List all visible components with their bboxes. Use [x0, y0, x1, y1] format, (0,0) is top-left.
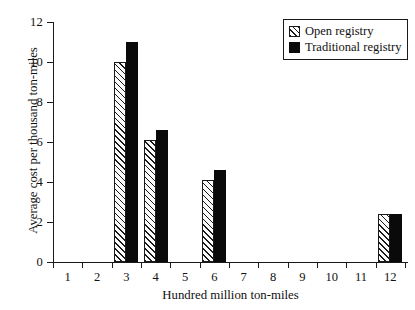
bar-open-registry-12 — [378, 214, 390, 262]
x-tick-label-8: 8 — [258, 271, 288, 284]
y-tick-12 — [47, 22, 53, 23]
filled-square-icon — [289, 42, 300, 53]
x-tick-9 — [317, 263, 318, 268]
legend-item-traditional-registry: Traditional registry — [289, 39, 401, 55]
bar-open-registry-6 — [202, 180, 214, 262]
x-tick-6 — [229, 263, 230, 268]
x-tick-5 — [200, 263, 201, 268]
y-tick-6 — [47, 142, 53, 143]
bar-traditional-registry-4 — [156, 130, 168, 262]
y-axis-line — [53, 22, 54, 263]
x-tick-3 — [141, 263, 142, 268]
x-tick-label-4: 4 — [141, 271, 171, 284]
legend-item-open-registry: Open registry — [289, 23, 401, 39]
x-axis-title: Hundred million ton-miles — [53, 288, 408, 303]
x-tick-4 — [170, 263, 171, 268]
y-axis-title: Average cost per thousand ton-miles — [26, 16, 41, 266]
x-tick-label-11: 11 — [346, 271, 376, 284]
x-tick-8 — [288, 263, 289, 268]
x-tick-10 — [346, 263, 347, 268]
x-tick-1 — [82, 263, 83, 268]
x-tick-label-7: 7 — [229, 271, 259, 284]
bar-traditional-registry-12 — [390, 214, 402, 262]
x-tick-label-10: 10 — [317, 271, 347, 284]
hatched-square-icon — [289, 26, 300, 37]
x-tick-label-2: 2 — [82, 271, 112, 284]
x-tick-label-5: 5 — [170, 271, 200, 284]
x-tick-7 — [258, 263, 259, 268]
x-tick-12 — [405, 263, 406, 268]
y-tick-10 — [47, 62, 53, 63]
bar-open-registry-3 — [114, 62, 126, 262]
x-tick-0 — [53, 263, 54, 268]
y-tick-2 — [47, 222, 53, 223]
x-axis-line — [53, 262, 408, 263]
x-tick-label-1: 1 — [53, 271, 83, 284]
y-tick-4 — [47, 182, 53, 183]
y-tick-8 — [47, 102, 53, 103]
x-tick-label-6: 6 — [199, 271, 229, 284]
bar-traditional-registry-6 — [214, 170, 226, 262]
legend-label-traditional-registry: Traditional registry — [305, 41, 401, 54]
bar-open-registry-4 — [144, 140, 156, 262]
bar-traditional-registry-3 — [126, 42, 138, 262]
legend-label-open-registry: Open registry — [305, 25, 373, 38]
x-tick-2 — [112, 263, 113, 268]
x-tick-label-9: 9 — [287, 271, 317, 284]
x-tick-label-12: 12 — [375, 271, 405, 284]
bar-chart-figure: 024681012 123456789101112 Average cost p… — [0, 0, 415, 310]
x-tick-11 — [376, 263, 377, 268]
chart-legend: Open registry Traditional registry — [283, 19, 408, 60]
x-tick-label-3: 3 — [111, 271, 141, 284]
